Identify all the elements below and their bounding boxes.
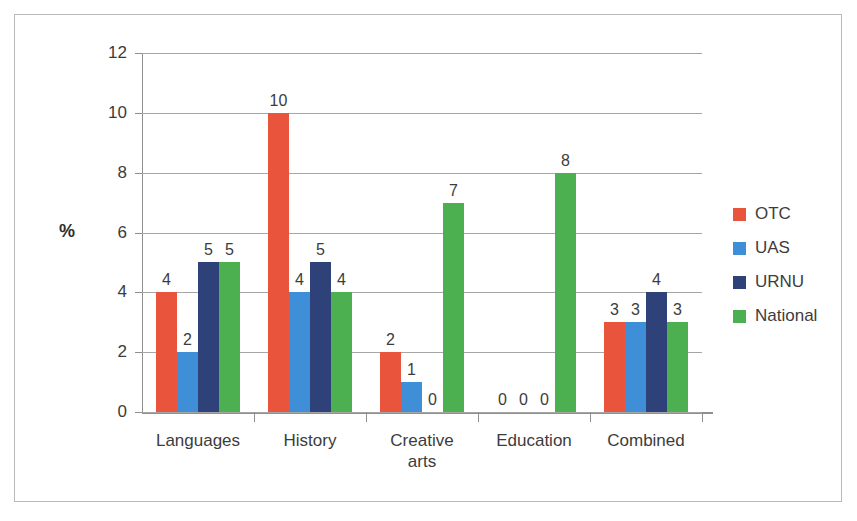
- bar-value-label: 0: [428, 391, 437, 409]
- y-axis-tick: [135, 292, 142, 293]
- bar-value-label: 4: [337, 271, 346, 289]
- legend-item-label: URNU: [755, 272, 804, 292]
- y-axis-tick: [135, 113, 142, 114]
- x-axis-tick: [590, 412, 591, 422]
- y-axis-tick: [135, 233, 142, 234]
- chart-frame: % 024681012 425510454210700083343 OTCUAS…: [14, 14, 842, 502]
- bar-value-label: 2: [183, 331, 192, 349]
- y-axis-tick-label: 4: [87, 282, 127, 302]
- legend-item-label: UAS: [755, 238, 790, 258]
- gridline: [142, 412, 702, 413]
- x-axis-tick: [366, 412, 367, 422]
- y-axis-title: %: [59, 221, 75, 242]
- bar[interactable]: [331, 292, 352, 412]
- bar[interactable]: [198, 262, 219, 412]
- legend-swatch-icon: [733, 242, 746, 255]
- bar-value-label: 8: [561, 152, 570, 170]
- bar-value-label: 0: [540, 391, 549, 409]
- y-axis-tick-label: 8: [87, 163, 127, 183]
- y-axis-tick-label: 2: [87, 342, 127, 362]
- bar[interactable]: [219, 262, 240, 412]
- legend-item-uas[interactable]: UAS: [733, 231, 843, 265]
- gridline: [142, 233, 702, 234]
- bar[interactable]: [401, 382, 422, 412]
- bar[interactable]: [646, 292, 667, 412]
- legend-item-urnu[interactable]: URNU: [733, 265, 843, 299]
- bar-value-label: 10: [270, 92, 288, 110]
- y-axis-tick-labels: 024681012: [79, 15, 127, 521]
- bar-value-label: 0: [519, 391, 528, 409]
- bar-value-label: 7: [449, 182, 458, 200]
- bar-value-label: 3: [610, 301, 619, 319]
- bar-value-label: 1: [407, 361, 416, 379]
- y-axis-tick-label: 0: [87, 402, 127, 422]
- bar[interactable]: [177, 352, 198, 412]
- bar-value-label: 0: [498, 391, 507, 409]
- gridline: [142, 53, 702, 54]
- legend-item-label: National: [755, 306, 817, 326]
- y-axis-tick: [135, 173, 142, 174]
- bar-value-label: 4: [652, 271, 661, 289]
- legend-swatch-icon: [733, 310, 746, 323]
- bar-value-label: 5: [204, 241, 213, 259]
- bar[interactable]: [310, 262, 331, 412]
- bar[interactable]: [555, 173, 576, 412]
- gridline: [142, 113, 702, 114]
- bar[interactable]: [667, 322, 688, 412]
- bar-value-label: 3: [631, 301, 640, 319]
- legend-swatch-icon: [733, 208, 746, 221]
- y-axis-tick: [135, 53, 142, 54]
- gridline: [142, 173, 702, 174]
- y-axis-tick-label: 12: [87, 43, 127, 63]
- x-axis-tick: [254, 412, 255, 422]
- x-axis-category-label: Education: [496, 430, 572, 451]
- legend-item-otc[interactable]: OTC: [733, 197, 843, 231]
- bar[interactable]: [268, 113, 289, 412]
- bar-value-label: 5: [225, 241, 234, 259]
- y-axis-tick: [135, 352, 142, 353]
- bar-value-label: 3: [673, 301, 682, 319]
- x-axis-category-label: Languages: [156, 430, 240, 451]
- legend-item-label: OTC: [755, 204, 791, 224]
- y-axis-tick-label: 6: [87, 223, 127, 243]
- x-axis-category-label: Combined: [607, 430, 685, 451]
- bar-value-label: 2: [386, 331, 395, 349]
- x-axis-category-label: Creative arts: [390, 430, 453, 473]
- legend-swatch-icon: [733, 276, 746, 289]
- x-axis-tick: [478, 412, 479, 422]
- legend-item-national[interactable]: National: [733, 299, 843, 333]
- x-axis-category-label: History: [284, 430, 337, 451]
- y-axis-tick: [135, 412, 142, 413]
- x-axis-tick: [702, 412, 703, 422]
- chart-legend: OTCUASURNUNational: [733, 197, 843, 333]
- y-axis-tick-label: 10: [87, 103, 127, 123]
- bar[interactable]: [289, 292, 310, 412]
- bar[interactable]: [156, 292, 177, 412]
- plot-area: 425510454210700083343: [142, 53, 702, 412]
- bar-value-label: 4: [162, 271, 171, 289]
- bar-value-label: 4: [295, 271, 304, 289]
- bar[interactable]: [380, 352, 401, 412]
- bar[interactable]: [443, 203, 464, 412]
- bar-value-label: 5: [316, 241, 325, 259]
- bar[interactable]: [625, 322, 646, 412]
- bar[interactable]: [604, 322, 625, 412]
